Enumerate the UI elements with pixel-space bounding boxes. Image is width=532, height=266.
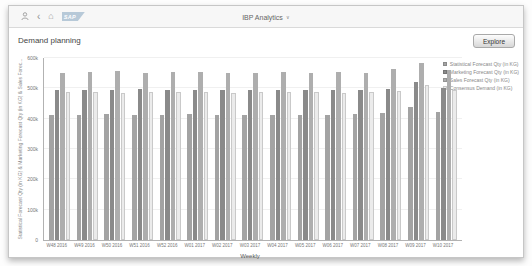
shell-nav: ‹ ⌂ SAP xyxy=(9,12,85,22)
bar[interactable] xyxy=(253,73,258,240)
page-header: Demand planning Explore xyxy=(9,28,523,53)
app-title-menu[interactable]: IBP Analytics ∨ xyxy=(242,13,290,20)
bar-group xyxy=(270,58,291,240)
back-icon[interactable]: ‹ xyxy=(37,12,40,22)
legend-label: Sales Forecast Qty (in KG) xyxy=(450,77,510,83)
bar[interactable] xyxy=(248,90,253,240)
x-tick-label: W03 2017 xyxy=(240,243,261,248)
bar[interactable] xyxy=(242,115,247,240)
bar[interactable] xyxy=(220,90,225,240)
bar[interactable] xyxy=(309,73,314,240)
bar-group xyxy=(298,58,319,240)
x-tick-label: W51 2016 xyxy=(129,243,150,248)
y-tick-label: 500k xyxy=(27,85,38,91)
sap-logo[interactable]: SAP xyxy=(62,12,85,21)
bar[interactable] xyxy=(110,90,115,240)
bar[interactable] xyxy=(358,90,363,240)
page-title: Demand planning xyxy=(18,36,81,45)
bar[interactable] xyxy=(369,92,374,240)
home-icon[interactable]: ⌂ xyxy=(48,12,53,21)
bar[interactable] xyxy=(132,115,137,240)
bar[interactable] xyxy=(452,90,457,240)
x-tick-label: W01 2017 xyxy=(185,243,206,248)
bar[interactable] xyxy=(287,92,292,240)
bar-group xyxy=(104,58,125,240)
bar[interactable] xyxy=(380,113,385,240)
y-tick-label: 0 xyxy=(35,237,38,243)
bar[interactable] xyxy=(77,115,82,240)
x-tick-label: W08 2017 xyxy=(378,243,399,248)
bar[interactable] xyxy=(414,82,419,240)
bar[interactable] xyxy=(66,92,71,240)
shell-bar: ‹ ⌂ SAP IBP Analytics ∨ xyxy=(9,6,523,28)
bar[interactable] xyxy=(336,72,341,240)
bar[interactable] xyxy=(408,107,413,240)
app-window: ‹ ⌂ SAP IBP Analytics ∨ Demand planning … xyxy=(8,5,524,258)
bar[interactable] xyxy=(325,115,330,240)
x-axis-title: Weekly xyxy=(43,253,457,259)
bar[interactable] xyxy=(121,93,126,240)
bar[interactable] xyxy=(187,114,192,240)
explore-button[interactable]: Explore xyxy=(473,34,515,48)
bar[interactable] xyxy=(104,114,109,240)
bar-group xyxy=(353,58,374,240)
bar[interactable] xyxy=(436,112,441,240)
bar[interactable] xyxy=(441,88,446,240)
x-tick-label: W06 2017 xyxy=(322,243,343,248)
bar[interactable] xyxy=(298,115,303,240)
bar[interactable] xyxy=(303,90,308,240)
x-tick-label: W49 2016 xyxy=(74,243,95,248)
bar[interactable] xyxy=(226,73,231,240)
bar[interactable] xyxy=(231,93,236,240)
bar[interactable] xyxy=(353,114,358,240)
bar-group xyxy=(242,58,263,240)
app-title: IBP Analytics xyxy=(242,13,283,20)
bar[interactable] xyxy=(88,72,93,240)
bar[interactable] xyxy=(55,90,60,240)
user-icon[interactable] xyxy=(21,12,29,21)
y-axis-ticks: 0100k200k300k400k500k600k xyxy=(9,58,41,240)
bar[interactable] xyxy=(391,69,396,240)
bar[interactable] xyxy=(160,115,165,240)
bar[interactable] xyxy=(397,91,402,240)
bar[interactable] xyxy=(138,89,143,240)
bar[interactable] xyxy=(176,92,181,240)
bar[interactable] xyxy=(49,115,54,240)
bar[interactable] xyxy=(93,92,98,240)
bar[interactable] xyxy=(215,115,220,240)
bar-group xyxy=(77,58,98,240)
bar[interactable] xyxy=(270,115,275,240)
bar[interactable] xyxy=(447,70,452,240)
bar[interactable] xyxy=(115,71,120,240)
bar[interactable] xyxy=(364,73,369,240)
bar[interactable] xyxy=(276,90,281,240)
bar-group xyxy=(160,58,181,240)
x-axis-labels: W48 2016W49 2016W50 2016W51 2016W52 2016… xyxy=(43,243,457,248)
bar[interactable] xyxy=(331,90,336,240)
y-tick-label: 600k xyxy=(27,55,38,61)
bar[interactable] xyxy=(386,89,391,240)
x-tick-label: W07 2017 xyxy=(350,243,371,248)
bar[interactable] xyxy=(193,90,198,240)
chevron-down-icon: ∨ xyxy=(286,14,290,20)
bar[interactable] xyxy=(165,90,170,240)
bar[interactable] xyxy=(425,85,430,240)
plot-area xyxy=(43,58,462,241)
bar[interactable] xyxy=(314,92,319,240)
y-tick-label: 400k xyxy=(27,116,38,122)
bar[interactable] xyxy=(419,63,424,240)
bar[interactable] xyxy=(60,73,65,240)
bar[interactable] xyxy=(281,72,286,240)
bar[interactable] xyxy=(259,92,264,240)
bar-group xyxy=(325,58,346,240)
bar[interactable] xyxy=(143,73,148,240)
bar-group xyxy=(49,58,70,240)
bar[interactable] xyxy=(171,72,176,240)
bar[interactable] xyxy=(198,72,203,240)
legend-label: Statistical Forecast Qty (in KG) xyxy=(450,61,519,67)
bar[interactable] xyxy=(82,90,87,240)
bar[interactable] xyxy=(342,93,347,240)
legend-label: Consensus Demand (in KG) xyxy=(450,85,513,91)
bar[interactable] xyxy=(204,92,209,240)
bar[interactable] xyxy=(149,92,154,240)
